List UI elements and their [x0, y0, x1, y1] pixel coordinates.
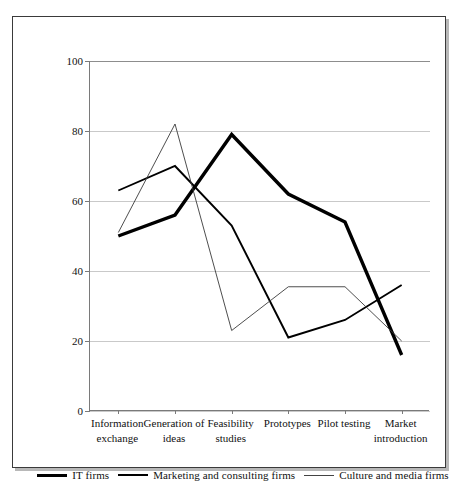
medium-line-swatch [118, 474, 148, 476]
chart-legend: IT firmsMarketing and consulting firmsCu… [33, 466, 453, 484]
legend-label: IT firms [72, 469, 109, 481]
y-tick-label-20: 20 [72, 335, 83, 347]
x-axis-label-line: introduction [358, 431, 444, 446]
legend-label: Culture and media firms [339, 469, 449, 481]
thick-line-swatch [37, 474, 67, 477]
chart-screenshot: 100806040200 InformationexchangeGenerati… [0, 0, 463, 494]
legend-label: Marketing and consulting firms [153, 469, 295, 481]
legend-item-it-firms[interactable]: IT firms [37, 469, 109, 481]
series-line-it-firms [118, 135, 401, 356]
y-tick-label-40: 40 [72, 265, 83, 277]
y-tick-label-100: 100 [67, 55, 84, 67]
thin-line-swatch [304, 475, 334, 476]
plot-area: 100806040200 [89, 61, 429, 411]
y-tick-mark-0 [85, 411, 90, 412]
x-axis-labels: InformationexchangeGeneration ofideasFea… [89, 416, 429, 462]
y-tick-label-80: 80 [72, 125, 83, 137]
x-axis-label-line: Market [358, 416, 444, 431]
x-axis-label-5: Marketintroduction [358, 416, 444, 446]
y-tick-label-60: 60 [72, 195, 83, 207]
gridline-0 [90, 411, 430, 412]
chart-frame: 100806040200 InformationexchangeGenerati… [12, 16, 446, 468]
x-axis-label-line: studies [188, 431, 274, 446]
legend-item-culture-and-media-firms[interactable]: Culture and media firms [304, 469, 449, 481]
series-line-culture-and-media-firms [118, 124, 401, 341]
series-lines-group [90, 61, 430, 411]
legend-item-marketing-and-consulting-firms[interactable]: Marketing and consulting firms [118, 469, 295, 481]
